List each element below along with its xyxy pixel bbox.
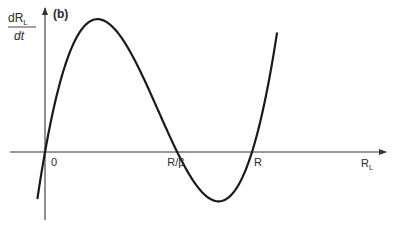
x-tick-label-0: 0 [51, 156, 57, 168]
panel-label: (b) [53, 7, 68, 21]
x-tick-label-2: R [254, 156, 262, 168]
y-label-numerator: dRL [8, 11, 28, 27]
plot-area: 0R/βR dRL dt (b) RL [0, 0, 404, 227]
y-axis-label: dRL dt [8, 11, 36, 43]
x-tick-label-1: R/β [167, 156, 184, 168]
rate-curve [38, 19, 277, 201]
y-label-denominator: dt [14, 29, 25, 43]
x-axis-label: RL [361, 157, 373, 172]
